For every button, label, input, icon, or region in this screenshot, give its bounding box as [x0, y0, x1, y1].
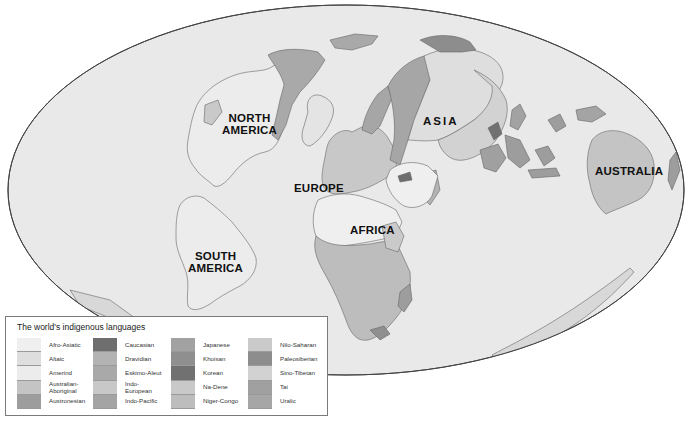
legend-column-4: Nilo-Saharan Paleosiberian Sino-Tibetan …: [248, 338, 326, 409]
legend-label: Dravidian: [125, 352, 151, 366]
legend-label: Indo-Pacific: [125, 395, 157, 409]
legend-label: Afro-Asiatic: [49, 338, 81, 352]
color-swatch: [17, 352, 41, 366]
color-swatch: [17, 366, 41, 380]
color-swatch: [93, 395, 117, 409]
color-swatch: [171, 395, 195, 409]
color-swatch: [248, 338, 272, 352]
color-swatch: [93, 338, 117, 352]
legend-item: Uralic: [248, 395, 326, 409]
legend-label: Na-Dene: [203, 381, 228, 395]
legend-column-3: Japanese Khoisan Korean Na-Dene Niger-Co…: [171, 338, 249, 409]
legend-item: Amerind: [17, 366, 95, 380]
legend-label: Japanese: [203, 338, 230, 352]
legend-label: Altaic: [49, 352, 64, 366]
color-swatch: [17, 381, 41, 395]
label-africa: AFRICA: [350, 224, 395, 236]
legend-label: Khoisan: [203, 352, 225, 366]
legend-item: Eskimo-Aleut: [93, 366, 171, 380]
legend-label: Caucasian: [125, 338, 154, 352]
legend: The world's indigenous languages Afro-As…: [5, 316, 328, 416]
label-south-america: SOUTH AMERICA: [188, 250, 243, 274]
legend-item: Afro-Asiatic: [17, 338, 95, 352]
color-swatch: [93, 352, 117, 366]
legend-label: Amerind: [49, 366, 72, 380]
legend-item: Indo- European: [93, 381, 171, 395]
legend-title: The world's indigenous languages: [17, 322, 145, 332]
color-swatch: [171, 352, 195, 366]
legend-item: Sino-Tibetan: [248, 366, 326, 380]
color-swatch: [171, 381, 195, 395]
color-swatch: [248, 352, 272, 366]
legend-item: Caucasian: [93, 338, 171, 352]
legend-label: Sino-Tibetan: [280, 366, 315, 380]
color-swatch: [93, 366, 117, 380]
color-swatch: [17, 395, 41, 409]
legend-label: Australian- Aboriginal: [49, 381, 79, 395]
label-asia: ASIA: [423, 115, 458, 127]
color-swatch: [248, 395, 272, 409]
legend-column-1: Afro-Asiatic Altaic Amerind Australian- …: [17, 338, 95, 409]
legend-label: Uralic: [280, 395, 296, 409]
legend-label: Paleosiberian: [280, 352, 318, 366]
legend-item: Indo-Pacific: [93, 395, 171, 409]
legend-item: Altaic: [17, 352, 95, 366]
region-java: [528, 168, 560, 178]
color-swatch: [17, 338, 41, 352]
legend-item: Paleosiberian: [248, 352, 326, 366]
legend-column-2: Caucasian Dravidian Eskimo-Aleut Indo- E…: [93, 338, 171, 409]
legend-label: Eskimo-Aleut: [125, 366, 161, 380]
legend-label: Korean: [203, 366, 223, 380]
label-europe: EUROPE: [294, 182, 344, 194]
color-swatch: [171, 366, 195, 380]
color-swatch: [171, 338, 195, 352]
label-australia: AUSTRALIA: [595, 165, 663, 177]
legend-item: Tai: [248, 381, 326, 395]
legend-item: Niger-Congo: [171, 395, 249, 409]
color-swatch: [248, 381, 272, 395]
label-north-america: NORTH AMERICA: [222, 112, 277, 136]
legend-item: Korean: [171, 366, 249, 380]
legend-label: Tai: [280, 381, 288, 395]
legend-item: Khoisan: [171, 352, 249, 366]
color-swatch: [248, 366, 272, 380]
legend-label: Nilo-Saharan: [280, 338, 316, 352]
color-swatch: [93, 381, 117, 395]
legend-item: Nilo-Saharan: [248, 338, 326, 352]
legend-item: Japanese: [171, 338, 249, 352]
legend-item: Austronesian: [17, 395, 95, 409]
legend-label: Indo- European: [125, 381, 152, 395]
legend-item: Australian- Aboriginal: [17, 381, 95, 395]
legend-label: Austronesian: [49, 395, 85, 409]
legend-item: Na-Dene: [171, 381, 249, 395]
legend-item: Dravidian: [93, 352, 171, 366]
legend-label: Niger-Congo: [203, 395, 238, 409]
